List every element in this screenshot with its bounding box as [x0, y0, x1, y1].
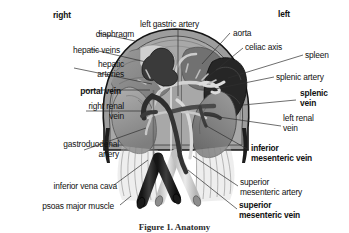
- label-right: right: [53, 11, 71, 21]
- label-gastroduodenal-artery: gastroduodenal artery: [0, 140, 119, 159]
- anatomical-figure: rightleftleft gastric arteryaortaceliac …: [0, 0, 349, 233]
- label-superior-mesenteric-artery: superior mesenteric artery: [240, 178, 302, 197]
- label-portal-vein: portal vein: [0, 87, 121, 97]
- label-layer: rightleftleft gastric arteryaortaceliac …: [0, 0, 349, 233]
- figure-caption: Figure 1. Anatomy: [0, 222, 349, 232]
- label-psoas-major-muscle: psoas major muscle: [0, 202, 114, 212]
- label-hepatic-veins: hepatic veins: [0, 46, 120, 56]
- label-hepatic-arteries: hepatic arteries: [0, 60, 124, 79]
- label-left-gastric-artery: left gastric artery: [140, 20, 199, 30]
- label-spleen: spleen: [305, 51, 329, 61]
- label-left: left: [278, 10, 290, 20]
- label-inferior-vena-cava: inferior vena cava: [0, 182, 117, 192]
- label-aorta: aorta: [233, 29, 251, 39]
- label-splenic-vein: splenic vein: [300, 89, 328, 108]
- label-inferior-mesenteric-vein: inferior mesenteric vein: [251, 144, 312, 163]
- label-celiac-axis: celiac axis: [245, 43, 282, 53]
- label-right-renal-vein: right renal vein: [0, 102, 124, 121]
- label-splenic-artery: splenic artery: [276, 73, 324, 83]
- label-diaphragm: diaphragm: [0, 30, 134, 40]
- label-superior-mesenteric-vein: superior mesenteric vein: [239, 201, 300, 220]
- label-left-renal-vein: left renal vein: [283, 114, 314, 133]
